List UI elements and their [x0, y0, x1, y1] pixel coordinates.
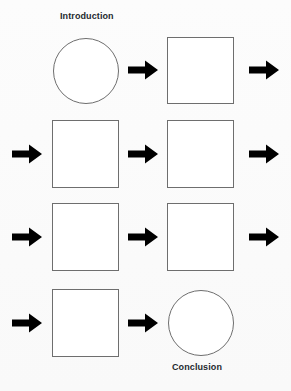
arrow-right-row4-mid — [128, 313, 158, 333]
node-introduction-circle[interactable] — [53, 38, 119, 104]
arrow-right-row2-mid — [128, 144, 158, 164]
arrow-right-row1-end — [249, 60, 279, 80]
arrow-right-row3-start — [12, 227, 42, 247]
node-r3c1-square[interactable] — [52, 203, 119, 271]
introduction-label: Introduction — [60, 11, 114, 22]
arrow-right-row3-end — [249, 227, 279, 247]
arrow-right-row2-end — [249, 144, 279, 164]
node-conclusion-circle[interactable] — [168, 290, 234, 356]
node-r1c2-square[interactable] — [167, 37, 234, 104]
arrow-right-row1-mid — [128, 60, 158, 80]
node-r2c1-square[interactable] — [52, 120, 119, 188]
node-r2c2-square[interactable] — [167, 120, 234, 188]
arrow-right-row2-start — [12, 144, 42, 164]
diagram-canvas: Introduction — [0, 0, 291, 391]
arrow-right-row4-start — [12, 313, 42, 333]
node-r3c2-square[interactable] — [167, 203, 234, 271]
arrow-right-row3-mid — [128, 227, 158, 247]
node-r4c1-square[interactable] — [52, 289, 119, 357]
conclusion-label: Conclusion — [172, 362, 222, 373]
